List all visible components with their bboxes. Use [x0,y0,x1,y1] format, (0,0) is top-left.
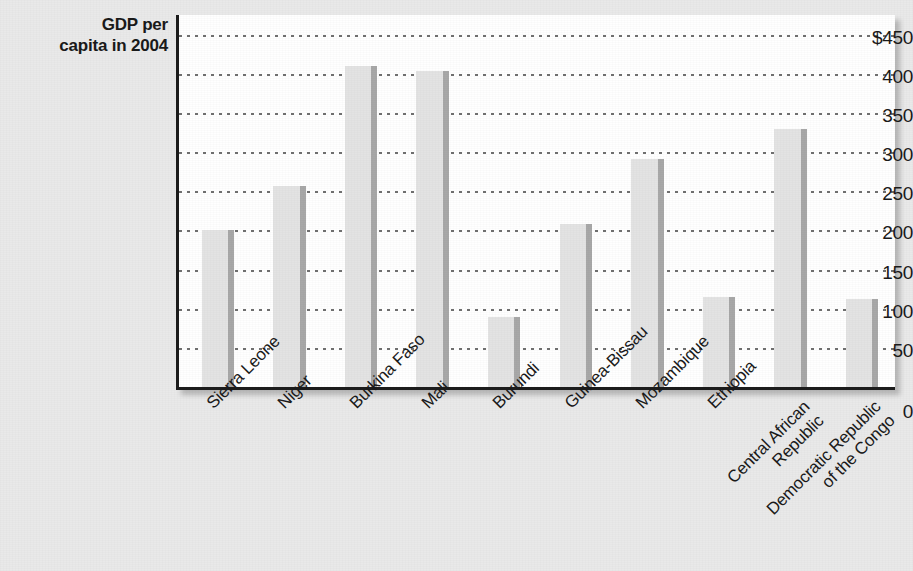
gdp-per-capita-bar-chart: GDP per capita in 2004 $4504003503002502… [0,0,913,571]
y-tick-label-100: 100 [747,302,913,321]
y-tick-label-200: 200 [747,223,913,242]
y-tick-label-300: 300 [747,145,913,164]
y-tick-label-450: $450 [747,28,913,47]
y-tick-label-150: 150 [747,263,913,282]
y-tick-label-50: 50 [747,341,913,360]
bar [345,66,378,387]
x-axis-category-labels: Sierra LeoneNigerBurkina FasoMaliBurundi… [176,393,913,571]
bar [560,224,593,387]
bar [202,230,235,387]
bar [631,159,664,387]
y-axis-title: GDP per capita in 2004 [0,14,168,56]
y-tick-label-350: 350 [747,106,913,125]
bar [273,186,306,387]
y-tick-label-250: 250 [747,184,913,203]
y-tick-label-400: 400 [747,67,913,86]
